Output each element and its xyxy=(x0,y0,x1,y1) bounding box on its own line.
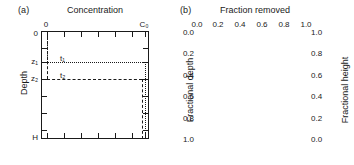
panel-a-plot-area: t₁ t₂ xyxy=(41,31,149,139)
tick-right-a-2 xyxy=(143,79,148,80)
tick-top-a-2 xyxy=(81,32,82,37)
panel-a-xtick-label-0: 0 xyxy=(44,20,48,29)
curve-t2-segment-vertical-top xyxy=(47,32,48,79)
panel-a: (a) Concentration 0 C₀ 0 z₁ z₂ H Depth xyxy=(0,0,177,165)
tick-bot-a-4 xyxy=(115,133,116,138)
tick-bot-a-3 xyxy=(98,133,99,138)
curve-label-t1: t₁ xyxy=(60,54,65,63)
tick-top-a-3 xyxy=(98,32,99,37)
tick-left-a-1 xyxy=(42,62,47,63)
panel-a-letter: (a) xyxy=(18,5,29,15)
tick-top-a-6 xyxy=(145,32,146,37)
curve-t1-segment-vertical-bottom xyxy=(145,62,146,139)
panel-a-xtick-label-1: C₀ xyxy=(139,20,148,29)
panel-b-ytick2-label-4: 0.2 xyxy=(311,114,322,123)
tick-right-a-5 xyxy=(143,130,148,131)
panel-b-title: Fraction removed xyxy=(220,5,290,15)
panel-b-xtick-label-2: 0.4 xyxy=(234,20,245,29)
curve-label-t2: t₂ xyxy=(60,71,65,80)
panel-b-ytick2-label-1: 0.8 xyxy=(311,49,322,58)
panel-b-ytick2-label-2: 0.6 xyxy=(311,71,322,80)
panel-b-xtick-label-1: 0.2 xyxy=(212,20,223,29)
panel-a-ytick-label-0: 0 xyxy=(34,29,38,38)
tick-bot-a-5 xyxy=(132,133,133,138)
panel-a-ytick-label-3: H xyxy=(32,133,38,142)
tick-bot-a-2 xyxy=(81,133,82,138)
panel-a-ytick-label-1: z₁ xyxy=(31,57,38,66)
figure-container: (a) Concentration 0 C₀ 0 z₁ z₂ H Depth xyxy=(0,0,354,165)
panel-b-letter: (b) xyxy=(180,5,191,15)
panel-a-title: Concentration xyxy=(67,5,123,15)
panel-b-ytick2-label-0: 1.0 xyxy=(311,28,322,37)
panel-a-yaxis-name: Depth xyxy=(19,53,29,113)
tick-left-a-5 xyxy=(42,130,47,131)
tick-right-a-0 xyxy=(143,48,148,49)
tick-right-a-1 xyxy=(143,62,148,63)
tick-left-a-2 xyxy=(42,79,47,80)
panel-b: (b) Fraction removed 0.0 0.2 0.4 0.6 0.8… xyxy=(177,0,354,165)
tick-top-a-1 xyxy=(64,32,65,37)
tick-bot-a-0 xyxy=(47,133,48,138)
panel-b-xtick-label-4: 0.8 xyxy=(278,20,289,29)
tick-right-a-4 xyxy=(143,113,148,114)
tick-left-a-4 xyxy=(42,113,47,114)
panel-a-ytick-label-2: z₂ xyxy=(31,74,38,83)
tick-top-a-4 xyxy=(115,32,116,37)
panel-b-ytick2-label-3: 0.4 xyxy=(311,92,322,101)
panel-b-xtick-label-5: 1.0 xyxy=(300,20,311,29)
panel-b-yaxis2-name: Fractional height xyxy=(340,40,350,140)
tick-top-a-0 xyxy=(47,32,48,37)
panel-b-ytick2-label-5: 0.0 xyxy=(311,135,322,144)
panel-b-yaxis-name: Fractional depth xyxy=(185,43,195,138)
panel-b-ytick-label-0: 0.0 xyxy=(183,28,194,37)
panel-b-xtick-label-3: 0.6 xyxy=(256,20,267,29)
tick-right-a-3 xyxy=(143,96,148,97)
tick-left-a-0 xyxy=(42,48,47,49)
tick-top-a-5 xyxy=(132,32,133,37)
tick-bot-a-1 xyxy=(64,133,65,138)
tick-left-a-3 xyxy=(42,96,47,97)
tick-bot-a-6 xyxy=(145,133,146,138)
